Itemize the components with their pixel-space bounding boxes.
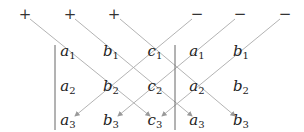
entry-a3: a3 — [60, 113, 75, 130]
entry-b2-repeat: b2 — [233, 79, 249, 96]
entry-a3-repeat: a3 — [189, 113, 204, 130]
entry-c2: c2 — [148, 79, 163, 96]
entry-b3: b3 — [103, 113, 119, 130]
plus-diagonal-1 — [30, 19, 150, 116]
entry-b2: b2 — [103, 79, 119, 96]
plus-sign-3: + — [108, 7, 121, 22]
entry-b1-repeat: b1 — [233, 44, 249, 61]
entry-a2: a2 — [60, 79, 75, 96]
minus-diagonal-3 — [162, 19, 280, 116]
plus-sign-1: + — [19, 7, 32, 22]
entry-c3: c3 — [148, 113, 163, 130]
entry-b3-repeat: b3 — [233, 113, 249, 130]
minus-sign-3: − — [279, 7, 292, 22]
entry-a1: a1 — [60, 44, 75, 61]
entry-c1: c1 — [148, 44, 163, 61]
entry-a2-repeat: a2 — [189, 79, 204, 96]
entry-a1-repeat: a1 — [189, 44, 204, 61]
minus-sign-2: − — [234, 7, 247, 22]
entry-b1: b1 — [103, 44, 119, 61]
plus-sign-2: + — [64, 7, 77, 22]
minus-sign-1: − — [191, 7, 204, 22]
sarrus-diagram: + + + − − − a1 b1 c1 a1 b1 a2 b2 c2 a2 b… — [0, 0, 304, 132]
